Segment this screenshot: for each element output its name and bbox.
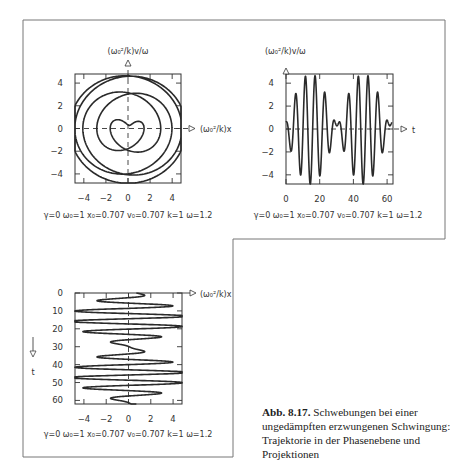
x-tick-label: 2 xyxy=(147,193,152,203)
velocity-time-chart: (ω₀²/k)v/ω t γ=0 ω₀=1 x₀=0.707 v₀=0.707 … xyxy=(254,47,423,220)
y-tick-label: 0 xyxy=(58,288,63,298)
y-tick-label: 4 xyxy=(58,78,63,88)
y-tick-label: 40 xyxy=(52,360,63,370)
y-tick-label: 60 xyxy=(52,395,63,405)
x-tick-label: −2 xyxy=(100,414,113,424)
x-tick-label: 0 xyxy=(125,193,130,203)
x-tick-label: 4 xyxy=(169,193,174,203)
y-tick-label: 0 xyxy=(269,124,274,134)
y-tick-label: 0 xyxy=(58,124,63,134)
x-tick-label: −4 xyxy=(78,193,91,203)
y-tick-label: 2 xyxy=(269,101,274,111)
x-tick-label: −4 xyxy=(78,414,91,424)
x-tick-label: 60 xyxy=(382,194,393,204)
x-tick-label: 0 xyxy=(283,194,288,204)
vt-params: γ=0 ω₀=1 x₀=0.707 v₀=0.707 k=1 ω=1.2 xyxy=(254,211,423,220)
x-tick-label: 2 xyxy=(148,414,153,424)
y-tick-label: −4 xyxy=(50,169,63,179)
phase-plane-chart: (ω₀²/k)v/ω (ω₀²/k)x γ=0 ω₀=1 x₀=0.707 v₀… xyxy=(44,47,232,220)
y-tick-label: 4 xyxy=(269,78,274,88)
y-tick-label: −2 xyxy=(261,147,274,157)
t-direction-arrow-icon xyxy=(30,337,36,357)
y-axis-arrow-icon xyxy=(283,68,289,74)
x-tick-label: 4 xyxy=(170,414,175,424)
x-tick-label: 20 xyxy=(314,194,325,204)
x-tick-label: 40 xyxy=(348,194,359,204)
x-axis-arrow-icon xyxy=(190,290,196,296)
y-tick-label: −4 xyxy=(261,170,274,180)
position-time-chart: (ω₀²/k)x t γ=0 ω₀=1 x₀=0.707 v₀=0.707 k=… xyxy=(30,288,232,439)
xt-xlabel: (ω₀²/k)x xyxy=(200,290,232,299)
phase-xlabel: (ω₀²/k)x xyxy=(200,125,232,134)
y-tick-label: 30 xyxy=(52,342,63,352)
x-axis-arrow-icon xyxy=(189,126,195,132)
xt-ylabel: t xyxy=(31,368,34,377)
figure-caption: Abb. 8.17. Schwebungen bei einer ungedäm… xyxy=(262,405,458,461)
series-line-v-t- xyxy=(286,76,392,184)
caption-label: Abb. 8.17. xyxy=(262,406,311,418)
y-axis-arrow-icon xyxy=(125,60,131,66)
vt-xlabel: t xyxy=(412,126,415,135)
y-tick-label: 20 xyxy=(52,324,63,334)
phase-ylabel: (ω₀²/k)v/ω xyxy=(108,47,149,56)
y-tick-label: 10 xyxy=(52,306,63,316)
xt-params: γ=0 ω₀=1 x₀=0.707 v₀=0.707 k=1 ω=1.2 xyxy=(44,430,213,439)
figure-canvas: (ω₀²/k)v/ω (ω₀²/k)x γ=0 ω₀=1 x₀=0.707 v₀… xyxy=(0,0,465,466)
y-tick-label: 2 xyxy=(58,101,63,111)
x-tick-label: −2 xyxy=(100,193,113,203)
x-axis-arrow-icon xyxy=(401,126,407,132)
phase-params: γ=0 ω₀=1 x₀=0.707 v₀=0.707 k=1 ω=1.2 xyxy=(44,211,213,220)
x-tick-label: 0 xyxy=(126,414,131,424)
y-tick-label: 50 xyxy=(52,378,63,388)
y-tick-label: −2 xyxy=(50,146,63,156)
vt-ylabel: (ω₀²/k)v/ω xyxy=(265,47,306,56)
figure-frame xyxy=(23,20,445,457)
